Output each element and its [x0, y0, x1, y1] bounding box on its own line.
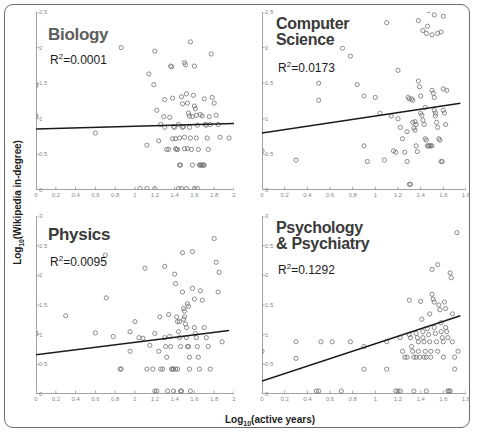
r-squared-annotation-psychology-psychiatry: R2=0.1292 — [278, 262, 335, 277]
data-point — [192, 325, 196, 329]
data-point — [448, 271, 452, 275]
data-point — [147, 72, 151, 76]
r-squared-value: =0.1292 — [291, 263, 335, 277]
data-point — [428, 340, 432, 344]
data-point — [214, 113, 218, 117]
data-point — [151, 367, 155, 371]
x-tick-label: 0.4 — [303, 192, 311, 198]
data-point — [93, 131, 97, 135]
data-point — [128, 330, 132, 334]
r-squared-annotation-physics: R2=0.0095 — [50, 254, 107, 269]
r-squared-value: =0.0001 — [63, 53, 107, 67]
data-point — [294, 340, 298, 344]
data-point — [190, 286, 194, 290]
y-axis-label-subscript: 10 — [18, 239, 25, 247]
data-point — [348, 340, 352, 344]
data-point — [365, 159, 369, 163]
data-point — [433, 114, 437, 118]
data-point — [192, 64, 196, 68]
data-point — [210, 95, 214, 99]
y-tick-label: 0 — [265, 187, 268, 193]
data-point — [441, 355, 445, 359]
data-point — [178, 344, 182, 348]
data-point — [362, 367, 366, 371]
data-point — [153, 49, 157, 53]
y-tick-label: 1 — [39, 332, 42, 338]
data-point — [167, 312, 171, 316]
data-point — [317, 81, 321, 85]
y-tick-label: 2 — [39, 272, 42, 278]
r-squared-value: =0.0173 — [291, 61, 335, 75]
data-point — [423, 349, 427, 353]
y-tick-label: 1 — [265, 116, 268, 122]
data-point — [405, 130, 409, 134]
y-tick-label: 0.5 — [265, 361, 273, 367]
data-point — [182, 135, 186, 139]
data-point — [429, 355, 433, 359]
x-tick-label: 0.8 — [348, 396, 356, 402]
data-point — [133, 320, 137, 324]
data-point — [319, 340, 323, 344]
data-point — [428, 312, 432, 316]
data-point — [205, 136, 209, 140]
r-squared-value: =0.0095 — [63, 255, 107, 269]
data-point — [421, 118, 425, 122]
data-point — [373, 95, 377, 99]
data-point — [119, 46, 123, 50]
data-point — [128, 349, 132, 353]
data-point — [168, 115, 172, 119]
data-point — [456, 349, 460, 353]
data-point — [414, 331, 418, 335]
data-point — [437, 303, 441, 307]
data-point — [202, 97, 206, 101]
data-point — [204, 336, 208, 340]
data-point — [148, 343, 152, 347]
data-point — [180, 251, 184, 255]
data-point — [184, 92, 188, 96]
data-point — [153, 331, 157, 335]
data-point — [157, 139, 161, 143]
data-point — [427, 333, 431, 337]
data-point — [440, 336, 444, 340]
data-point — [192, 297, 196, 301]
data-point — [180, 290, 184, 294]
r-squared-symbol: R — [50, 255, 59, 269]
data-point — [433, 331, 437, 335]
data-point — [163, 264, 167, 268]
data-point — [198, 289, 202, 293]
data-point — [405, 159, 409, 163]
data-point — [420, 317, 424, 321]
data-point — [416, 340, 420, 344]
regression-line — [262, 316, 460, 381]
y-tick-label: 1 — [39, 116, 42, 122]
data-point — [176, 330, 180, 334]
data-point — [436, 263, 440, 267]
panel-psychology-psychiatry: 00.20.40.60.811.21.41.61.800.511.522.53P… — [262, 216, 466, 394]
data-point — [407, 298, 411, 302]
x-tick-label: 2 — [232, 192, 235, 198]
data-point — [449, 276, 453, 280]
data-point — [145, 367, 149, 371]
r-squared-annotation-biology: R2=0.0001 — [50, 52, 107, 67]
data-point — [217, 270, 221, 274]
data-points — [262, 231, 460, 394]
data-point — [173, 272, 177, 276]
data-point — [414, 144, 418, 148]
data-point — [427, 12, 431, 13]
data-point — [385, 367, 389, 371]
data-point — [195, 344, 199, 348]
x-tick-label: 1.6 — [439, 396, 447, 402]
y-axis-label: Log10(Wikipedia in-degree) — [12, 93, 25, 313]
data-point — [209, 52, 213, 56]
data-point — [417, 85, 421, 89]
data-point — [216, 290, 220, 294]
data-point — [441, 14, 445, 18]
data-point — [396, 117, 400, 121]
data-point — [165, 355, 169, 359]
data-point — [185, 101, 189, 105]
data-point — [430, 33, 434, 37]
data-point — [416, 79, 420, 83]
x-tick-label: 1.6 — [190, 396, 198, 402]
data-point — [416, 349, 420, 353]
data-point — [196, 147, 200, 151]
